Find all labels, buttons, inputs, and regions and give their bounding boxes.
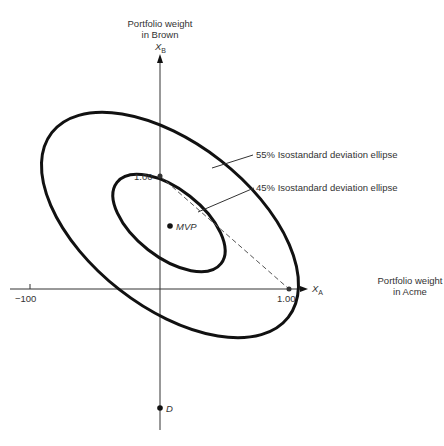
point-xa-1 — [287, 287, 292, 292]
x-axis-title-line1: Portfolio weight — [370, 275, 444, 286]
y-axis-symbol: XB — [155, 41, 166, 53]
x-axis-tick-label-neg: −100 — [15, 293, 36, 304]
y-axis-title-line2: in Brown — [110, 29, 210, 40]
point-d — [157, 405, 163, 411]
y-axis-title-line1: Portfolio weight — [110, 18, 210, 29]
diagram-canvas — [0, 0, 444, 446]
y-axis-symbol-sub: B — [161, 47, 166, 54]
y-axis-arrow-icon — [157, 54, 163, 63]
ellipse-45-label: 45% Isostandard deviation ellipse — [256, 182, 398, 193]
x-axis-title-line2: in Acme — [370, 286, 444, 297]
x-axis-title: Portfolio weight in Acme — [370, 275, 444, 297]
point-mvp — [167, 223, 173, 229]
ellipse-45 — [96, 156, 242, 291]
x-axis-symbol-sub: A — [318, 289, 323, 296]
d-label: D — [166, 403, 173, 414]
mvp-label: MVP — [176, 221, 197, 232]
ellipse-55-label: 55% Isostandard deviation ellipse — [256, 149, 398, 160]
x-axis-symbol: XA — [312, 283, 323, 295]
leader-45 — [198, 188, 254, 212]
y-axis-title: Portfolio weight in Brown — [110, 18, 210, 40]
x-axis-arrow-icon — [300, 286, 308, 292]
x-axis-tick-label-pos: 1.00 — [277, 293, 296, 304]
point-xb-1 — [158, 174, 163, 179]
y-axis-tick-label: 1.00 — [134, 171, 153, 182]
